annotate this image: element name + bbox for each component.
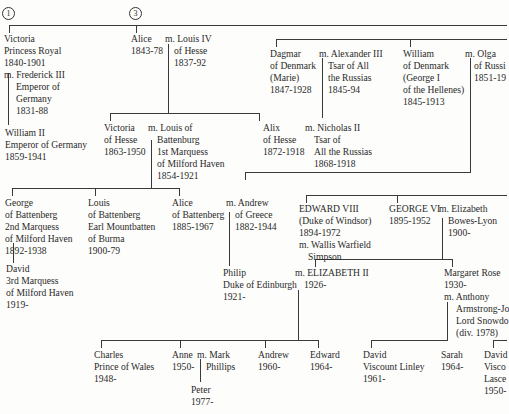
connector-line xyxy=(259,113,260,121)
connector-line xyxy=(110,113,260,114)
person-edward: Edward 1964- xyxy=(310,349,340,373)
connector-line xyxy=(101,340,319,341)
person-william-ii: William II Emperor of Germany 1859-1941 xyxy=(5,127,87,163)
person-mark-phillips: m. Mark Phillips xyxy=(197,349,235,373)
person-anne: Anne 1950- xyxy=(172,349,194,373)
connector-line xyxy=(452,259,453,267)
person-margaret-rose: Margaret Rose 1930- m. Anthony Armstrong… xyxy=(444,267,509,339)
connector-line xyxy=(298,290,299,341)
connector-line xyxy=(180,340,181,348)
connector-line xyxy=(371,340,372,348)
connector-line xyxy=(9,25,507,26)
person-george-of-battenberg: George of Battenberg 2nd Marquess of Mil… xyxy=(5,197,73,257)
person-dagmar: Dagmar of Denmark (Marie) 1847-1928 xyxy=(270,48,316,96)
person-charles: Charles Prince of Wales 1948- xyxy=(94,349,154,385)
person-david-milford-haven: David 3rd Marquess of Milford Haven 1919… xyxy=(6,263,74,311)
connector-line xyxy=(493,340,494,348)
person-elizabeth-bowes-lyon: m. Elizabeth Bowes-Lyon 1900- xyxy=(439,203,497,239)
person-david-lascelles: David Visco Lasce 1950- xyxy=(484,349,507,397)
connector-line xyxy=(318,340,319,348)
person-andrew: Andrew 1960- xyxy=(258,349,289,373)
connector-line xyxy=(410,39,411,47)
person-david-linley: David Viscount Linley 1961- xyxy=(363,349,425,385)
person-andrew-of-greece: m. Andrew of Greece 1882-1944 xyxy=(226,197,277,233)
person-victoria-princess-royal: Victoria Princess Royal 1840-1901 m. Fre… xyxy=(4,33,65,117)
connector-line xyxy=(136,25,137,33)
person-peter: Peter 1977- xyxy=(191,384,213,408)
connector-line xyxy=(306,195,307,203)
connector-line xyxy=(276,39,507,40)
connector-line xyxy=(179,188,180,196)
connector-line xyxy=(265,340,266,348)
connector-line xyxy=(9,25,10,33)
person-louis-of-battenberg: m. Louis of Battenburg 1st Marquess of M… xyxy=(148,122,225,182)
connector-line xyxy=(245,172,471,173)
person-elizabeth-ii: m. ELIZABETH II 1926- xyxy=(295,267,369,291)
person-alexander-iii: m. Alexander III Tsar of All the Russias… xyxy=(319,48,383,96)
connector-line xyxy=(306,195,507,196)
connector-line xyxy=(12,188,13,196)
person-olga: m. Olga of Russi 1851-19 xyxy=(465,48,506,84)
person-philip: Philip Duke of Edinburgh 1921- xyxy=(223,267,297,303)
connector-line xyxy=(110,113,111,121)
generation-marker-3: 3 xyxy=(129,7,142,20)
connector-line xyxy=(101,340,102,348)
person-nicholas-ii: m. Nicholas II Tsar of All the Russias 1… xyxy=(305,122,372,170)
connector-line xyxy=(245,172,246,180)
person-edward-viii: EDWARD VIII (Duke of Windsor) 1894-1972 … xyxy=(299,203,371,263)
connector-line xyxy=(397,195,398,203)
connector-line xyxy=(95,188,96,196)
person-george-vi: GEORGE VI 1895-1952 xyxy=(389,203,440,227)
person-sarah: Sarah 1964- xyxy=(441,349,463,373)
person-william-of-denmark: William of Denmark (George I of the Hell… xyxy=(403,48,464,108)
connector-line xyxy=(493,340,507,341)
person-louis-mountbatten: Louis of Battenberg Earl Mountbatten of … xyxy=(88,197,155,257)
connector-line xyxy=(371,340,448,341)
connector-line xyxy=(276,39,277,47)
person-alix-of-hesse: Alix of Hesse 1872-1918 xyxy=(263,122,305,158)
person-victoria-of-hesse: Victoria of Hesse 1863-1950 xyxy=(104,122,146,158)
generation-marker-1: 1 xyxy=(2,7,15,20)
person-louis-iv: m. Louis IV of Hesse 1837-92 xyxy=(165,33,212,69)
person-alice-of-battenberg: Alice of Battenberg 1885-1967 xyxy=(172,197,224,233)
person-alice: Alice 1843-78 xyxy=(131,33,163,57)
